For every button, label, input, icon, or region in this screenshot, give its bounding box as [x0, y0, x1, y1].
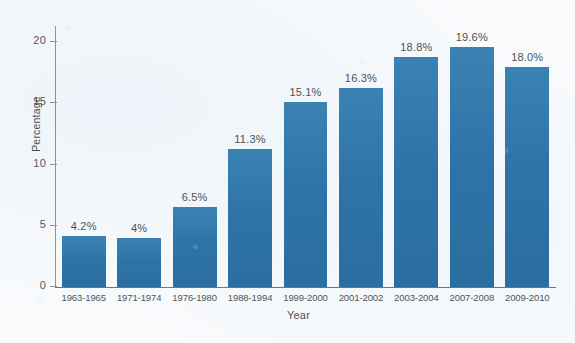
x-tick-label: 1999-2000 [278, 292, 333, 303]
bar[interactable] [117, 238, 161, 287]
bar-value-label: 6.5% [182, 191, 208, 203]
x-tick-label: 1976-1980 [167, 292, 222, 303]
bar-group[interactable]: 4.2% [62, 30, 106, 287]
bar-chart: Percentage 05101520 4.2%4%6.5%11.3%15.1%… [0, 0, 575, 343]
y-tick-label: 10 [22, 157, 46, 169]
bar[interactable] [394, 57, 438, 287]
x-tick-label: 2001-2002 [333, 292, 388, 303]
bar-series: 4.2%4%6.5%11.3%15.1%16.3%18.8%19.6%18.0% [56, 30, 555, 287]
bar-value-label: 15.1% [289, 86, 321, 98]
x-tick-label: 2007-2008 [444, 292, 499, 303]
bar[interactable] [62, 236, 106, 287]
bar-group[interactable]: 18.0% [505, 30, 549, 287]
x-tick-label: 1963-1965 [56, 292, 111, 303]
bar-group[interactable]: 11.3% [228, 30, 272, 287]
y-tick-label: 20 [22, 34, 46, 46]
x-tick-label: 2003-2004 [389, 292, 444, 303]
bar-group[interactable]: 4% [117, 30, 161, 287]
x-axis-title-text: Year [287, 309, 310, 321]
x-tick-label: 1988-1994 [222, 292, 277, 303]
bar[interactable] [505, 67, 549, 287]
plot-area: 05101520 4.2%4%6.5%11.3%15.1%16.3%18.8%1… [56, 30, 555, 287]
bar-value-label: 11.3% [234, 133, 265, 145]
bar[interactable] [450, 47, 494, 287]
bar[interactable] [228, 149, 272, 287]
bar-value-label: 4% [131, 222, 147, 234]
x-axis-line [55, 287, 556, 288]
bar-group[interactable]: 18.8% [394, 30, 438, 287]
x-tick-label: 1971-1974 [111, 292, 166, 303]
bar-group[interactable]: 19.6% [450, 30, 494, 287]
bar-value-label: 4.2% [71, 220, 97, 232]
bar-group[interactable]: 15.1% [284, 30, 328, 287]
bar-group[interactable]: 6.5% [173, 30, 217, 287]
bar[interactable] [284, 102, 328, 287]
bar-value-label: 16.3% [345, 72, 377, 84]
bar[interactable] [173, 207, 217, 287]
y-tick-label: 15 [22, 95, 46, 107]
bar-value-label: 18.0% [511, 51, 543, 63]
bar[interactable] [339, 88, 383, 287]
x-axis-title: Year [0, 309, 575, 321]
bar-group[interactable]: 16.3% [339, 30, 383, 287]
x-tick-label: 2009-2010 [500, 292, 555, 303]
y-tick-label: 5 [22, 218, 46, 230]
bar-value-label: 19.6% [456, 31, 488, 43]
y-tick-label: 0 [22, 279, 46, 291]
bar-value-label: 18.8% [400, 41, 432, 53]
